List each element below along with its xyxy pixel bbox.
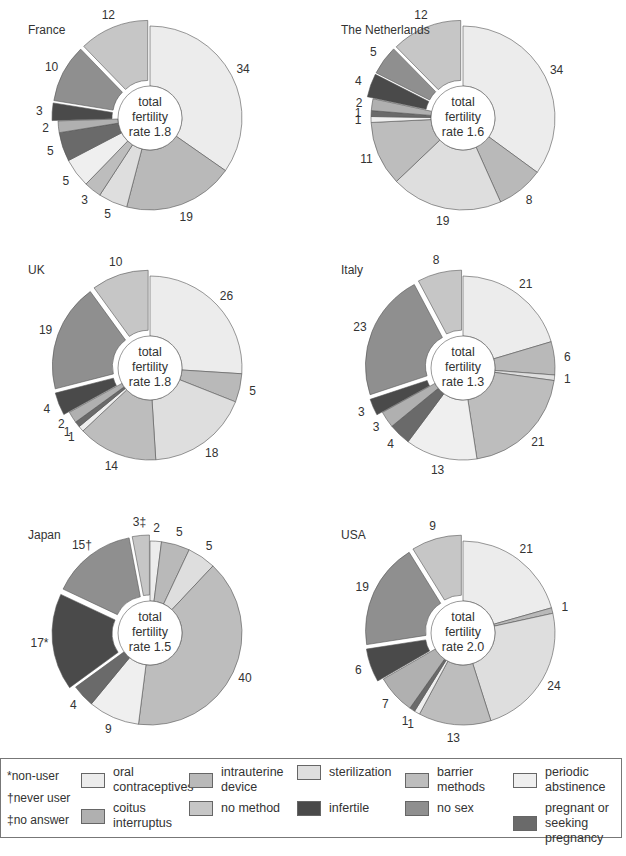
donut-italy: 21612113433238totalfertilityrate 1.3Ital…	[313, 240, 626, 480]
center-label: fertility	[445, 625, 482, 639]
slice-value-label: 1	[64, 425, 71, 439]
legend-label: infertile	[329, 801, 369, 816]
country-title: USA	[341, 528, 366, 542]
center-label: fertility	[132, 110, 169, 124]
donut-japan: 255409417*15†3‡totalfertilityrate 1.5Jap…	[0, 505, 313, 745]
legend-item-iud: intrauterinedevice	[189, 765, 284, 795]
legend-item-no_method: no method	[189, 801, 280, 816]
center-label: rate 2.0	[442, 640, 484, 654]
slice-value-label: 5	[176, 525, 183, 539]
legend-label: pregnant orseeking pregnancy	[545, 801, 621, 846]
slice-value-label: 1	[564, 372, 571, 386]
center-label: fertility	[132, 360, 169, 374]
slice-value-label: 6	[355, 663, 362, 677]
slice-value-label: 7	[382, 697, 389, 711]
donut-france: 34195355231012totalfertilityrate 1.8Fran…	[0, 0, 313, 220]
slice-value-label: 3	[36, 104, 43, 118]
slice-value-label: 12	[102, 8, 116, 22]
slice-value-label: 13	[431, 463, 445, 477]
note-no-answer: ‡no answer	[7, 809, 70, 831]
slice-value-label: 19	[436, 214, 450, 228]
legend-label: no sex	[437, 801, 474, 816]
slice-value-label: 3	[81, 193, 88, 207]
slice-value-label: 17*	[30, 636, 48, 650]
center-label: rate 1.6	[442, 125, 484, 139]
slice-value-label: 12	[414, 8, 428, 22]
slice-value-label: 34	[550, 63, 564, 77]
slice-value-label: 5	[206, 539, 213, 553]
legend-label: barriermethods	[437, 765, 485, 795]
note-non-user: *non-user	[7, 765, 70, 787]
slice-value-label: 3‡	[133, 515, 146, 529]
center-label: total	[138, 95, 162, 109]
slice-value-label: 23	[353, 320, 367, 334]
donut-usa: 21124131176199totalfertilityrate 2.0USA	[313, 505, 626, 745]
legend-label: no method	[221, 801, 280, 816]
legend-label: periodicabstinence	[545, 765, 605, 795]
legend-swatch-infertile	[297, 801, 321, 816]
slice-value-label: 11	[360, 152, 373, 166]
legend-item-coitus: coitusinterruptus	[81, 801, 172, 831]
legend-swatch-oral	[81, 773, 105, 788]
legend-label: oralcontraceptives	[113, 765, 194, 795]
center-label: fertility	[445, 110, 482, 124]
slice-value-label: 4	[43, 402, 50, 416]
legend-item-no_sex: no sex	[405, 801, 474, 816]
slice-value-label: 10	[109, 255, 123, 269]
slice-value-label: 26	[220, 289, 234, 303]
legend-swatch-no_sex	[405, 801, 429, 816]
country-title: Italy	[341, 263, 363, 277]
legend: *non-user †never user ‡no answer oralcon…	[0, 758, 622, 838]
slice-value-label: 9	[429, 519, 436, 533]
legend-label: intrauterinedevice	[221, 765, 284, 795]
slice-value-label: 5	[370, 45, 377, 59]
legend-swatch-coitus	[81, 809, 105, 824]
center-label: rate 1.5	[129, 640, 171, 654]
slice-value-label: 19	[355, 580, 369, 594]
legend-swatch-barrier	[405, 773, 429, 788]
slice-value-label: 1	[402, 714, 409, 728]
slice-value-label: 13	[447, 731, 461, 745]
legend-item-barrier: barriermethods	[405, 765, 485, 795]
legend-notes: *non-user †never user ‡no answer	[7, 765, 70, 831]
slice-value-label: 3	[373, 420, 380, 434]
center-label: fertility	[132, 625, 169, 639]
slice-value-label: 21	[519, 277, 533, 291]
legend-item-sterilization: sterilization	[297, 765, 392, 780]
country-title: France	[28, 23, 66, 37]
country-title: Japan	[28, 528, 61, 542]
slice-value-label: 6	[564, 350, 571, 364]
legend-label: sterilization	[329, 765, 392, 780]
slice-value-label: 2	[153, 521, 160, 535]
legend-swatch-iud	[189, 773, 213, 788]
slice-value-label: 14	[105, 459, 119, 473]
slice-value-label: 5	[249, 384, 256, 398]
slice-value-label: 2	[356, 96, 363, 110]
slice-value-label: 2	[42, 121, 49, 135]
legend-swatch-periodic	[513, 773, 537, 788]
slice-value-label: 9	[105, 722, 112, 736]
center-label: fertility	[445, 360, 482, 374]
country-title: The Netherlands	[341, 23, 430, 37]
center-label: rate 1.8	[129, 375, 171, 389]
slice-value-label: 10	[45, 60, 59, 74]
legend-swatch-pregnant	[513, 816, 537, 831]
slice-value-label: 34	[236, 62, 250, 76]
slice-value-label: 21	[531, 435, 545, 449]
slice-value-label: 5	[47, 144, 54, 158]
legend-item-pregnant: pregnant orseeking pregnancy	[513, 801, 621, 846]
center-label: rate 1.3	[442, 375, 484, 389]
note-never-user: †never user	[7, 787, 70, 809]
center-label: total	[451, 95, 475, 109]
slice-value-label: 4	[70, 698, 77, 712]
slice-value-label: 19	[180, 210, 194, 224]
center-label: total	[138, 610, 162, 624]
center-label: total	[138, 345, 162, 359]
center-label: rate 1.8	[129, 125, 171, 139]
slice-value-label: 21	[520, 542, 534, 556]
legend-label: coitusinterruptus	[113, 801, 172, 831]
slice-value-label: 19	[39, 323, 53, 337]
slice-value-label: 5	[104, 207, 111, 221]
slice-value-label: 24	[547, 679, 561, 693]
legend-item-oral: oralcontraceptives	[81, 765, 194, 795]
